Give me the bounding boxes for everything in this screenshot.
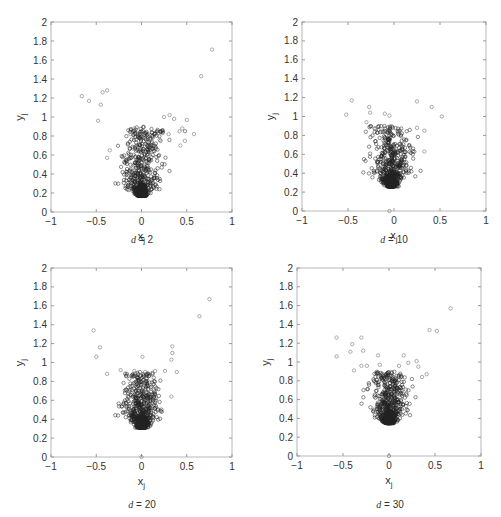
outlier-point	[365, 364, 368, 367]
x-tick-label: 0	[139, 461, 145, 472]
x-tick-label: 1	[229, 216, 235, 227]
y-axis-label: yj	[13, 359, 28, 367]
y-tick-label: 2	[292, 17, 298, 28]
outlier-point	[141, 355, 144, 358]
y-tick-label: 1.2	[284, 92, 298, 103]
outlier-point	[198, 315, 201, 318]
scatter-plot: −1−0.500.5100.20.40.60.811.21.41.61.82xj…	[250, 246, 501, 517]
outlier-point	[87, 99, 90, 102]
panel-caption: d = 10	[334, 234, 454, 245]
outlier-point	[449, 307, 452, 310]
y-tick-label: 1.8	[33, 281, 47, 292]
y-tick-label: 1.6	[33, 55, 47, 66]
x-tick-label: −1	[45, 461, 57, 472]
y-tick-label: 1	[292, 111, 298, 122]
outlier-point	[420, 375, 423, 378]
outlier-point	[365, 121, 368, 124]
y-tick-label: 1.4	[279, 319, 293, 330]
outlier-point	[397, 364, 400, 367]
y-tick-label: 0.8	[284, 130, 298, 141]
outlier-point	[183, 139, 186, 142]
outlier-point	[349, 350, 352, 353]
outlier-point	[95, 355, 98, 358]
outlier-point	[170, 358, 173, 361]
outlier-point	[200, 75, 203, 78]
outlier-point	[360, 364, 363, 367]
outlier-point	[168, 113, 171, 116]
y-axis-label: yj	[13, 113, 28, 121]
outlier-point	[171, 351, 174, 354]
outlier-point	[96, 119, 99, 122]
data-points	[345, 99, 444, 213]
y-tick-label: 1.2	[279, 338, 293, 349]
outlier-point	[105, 156, 108, 159]
y-tick-label: 2	[287, 263, 293, 274]
outlier-point	[440, 115, 443, 118]
outlier-point	[428, 328, 431, 331]
outlier-point	[192, 132, 195, 135]
y-tick-label: 1.8	[279, 281, 293, 292]
y-tick-label: 0.4	[279, 413, 293, 424]
y-tick-label: 2	[41, 17, 47, 28]
y-tick-label: 0.8	[33, 376, 47, 387]
outlier-point	[98, 346, 101, 349]
outlier-point	[178, 130, 181, 133]
outlier-point	[378, 363, 381, 366]
x-tick-label: −0.5	[338, 215, 358, 226]
x-tick-label: 1	[483, 215, 489, 226]
data-points	[80, 48, 214, 198]
outlier-point	[402, 354, 405, 357]
outlier-point	[167, 132, 170, 135]
outlier-point	[175, 370, 178, 373]
outlier-point	[415, 100, 418, 103]
outlier-point	[105, 372, 108, 375]
outlier-point	[101, 91, 104, 94]
y-tick-label: 0.2	[284, 187, 298, 198]
scatter-panel-d20: −1−0.500.5100.20.40.60.811.21.41.61.82xj…	[0, 246, 250, 517]
outlier-point	[362, 349, 365, 352]
outlier-point	[158, 138, 161, 141]
outlier-point	[383, 112, 386, 115]
outlier-point	[430, 105, 433, 108]
outlier-point	[417, 365, 420, 368]
outlier-point	[105, 89, 108, 92]
x-tick-label: −0.5	[86, 216, 106, 227]
y-tick-label: 0.6	[279, 394, 293, 405]
x-tick-label: −0.5	[333, 460, 353, 471]
scatter-panel-d30: −1−0.500.5100.20.40.60.811.21.41.61.82xj…	[250, 246, 501, 517]
outlier-point	[345, 113, 348, 116]
x-tick-label: 0.5	[180, 216, 194, 227]
y-tick-label: 0.4	[284, 168, 298, 179]
x-tick-label: −1	[45, 216, 57, 227]
scatter-panel-d10: −1−0.500.5100.20.40.60.811.21.41.61.82xj…	[250, 0, 501, 258]
outlier-point	[368, 111, 371, 114]
outlier-point	[181, 127, 184, 130]
y-tick-label: 1	[287, 357, 293, 368]
y-tick-label: 0.6	[33, 150, 47, 161]
plot-frame	[297, 268, 481, 456]
outlier-point	[335, 355, 338, 358]
outlier-point	[108, 149, 111, 152]
outlier-point	[423, 150, 426, 153]
outlier-point	[425, 373, 428, 376]
y-tick-label: 0.6	[33, 395, 47, 406]
outlier-point	[208, 298, 211, 301]
outlier-point	[415, 359, 418, 362]
y-tick-label: 0.8	[33, 131, 47, 142]
outlier-point	[388, 114, 391, 117]
outlier-point	[368, 105, 371, 108]
data-points	[92, 298, 211, 459]
outlier-point	[407, 361, 410, 364]
y-tick-label: 1.4	[284, 73, 298, 84]
x-tick-label: 0	[386, 460, 392, 471]
y-tick-label: 1.6	[284, 54, 298, 65]
outlier-point	[171, 345, 174, 348]
y-tick-label: 1.4	[33, 74, 47, 85]
outlier-point	[350, 99, 353, 102]
outlier-point	[99, 103, 102, 106]
x-tick-label: −0.5	[86, 461, 106, 472]
y-tick-label: 0	[41, 207, 47, 218]
scatter-plot: −1−0.500.5100.20.40.60.811.21.41.61.82xj…	[0, 246, 250, 517]
scatter-plot: −1−0.500.5100.20.40.60.811.21.41.61.82xj…	[0, 0, 250, 258]
y-tick-label: 1	[41, 357, 47, 368]
